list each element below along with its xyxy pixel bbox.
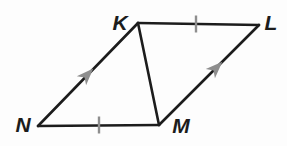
vertex-label-L: L	[265, 11, 278, 34]
vertex-label-M: M	[172, 114, 190, 137]
vertex-label-N: N	[15, 113, 31, 136]
vertex-label-K: K	[112, 11, 129, 34]
diagonal-KM	[138, 23, 159, 125]
edge-LM	[159, 25, 259, 125]
geometry-figure: KLMN	[0, 0, 287, 146]
edge-KL	[138, 23, 259, 25]
parallelogram-klmn-diagram: KLMN	[0, 0, 287, 146]
